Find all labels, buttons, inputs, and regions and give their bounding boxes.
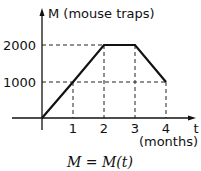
y-axis-label: M (mouse traps) [48, 6, 155, 21]
x-axis-arrow-icon [188, 116, 196, 121]
x-axis-unit: (months) [139, 134, 198, 149]
x-tick-1: 1 [69, 121, 77, 136]
caption-formula: M = M(t) [66, 154, 133, 170]
y-axis-arrow-icon [40, 8, 45, 16]
x-tick-3: 3 [131, 121, 139, 136]
reference-lines [42, 45, 166, 118]
chart: M (mouse traps) 2000 1000 1 2 3 4 t (mon… [0, 0, 201, 171]
y-tick-2000: 2000 [3, 38, 36, 53]
x-tick-2: 2 [100, 121, 108, 136]
y-tick-1000: 1000 [3, 75, 36, 90]
